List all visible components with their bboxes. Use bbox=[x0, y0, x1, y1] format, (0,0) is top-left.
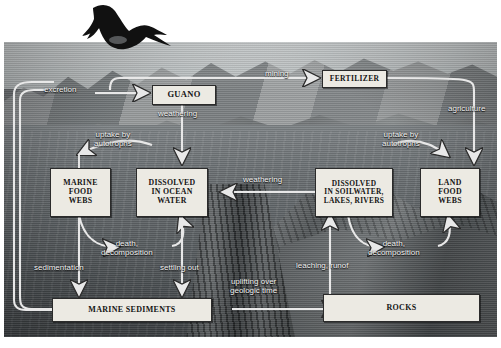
label-settling-out: settling out bbox=[160, 264, 199, 273]
box-dissolved-ocean-water[interactable]: DISSOLVEDIN OCEANWATER bbox=[136, 168, 208, 217]
label-excretion: excretion bbox=[44, 86, 76, 95]
label-uptake-marine: uptake byautotrophs bbox=[94, 131, 132, 148]
box-guano-label: GUANO bbox=[167, 90, 200, 100]
box-fertilizer[interactable]: FERTILIZER bbox=[322, 70, 387, 88]
box-fertilizer-label: FERTILIZER bbox=[330, 75, 380, 84]
label-mining: mining bbox=[265, 70, 289, 79]
box-rocks[interactable]: ROCKS bbox=[323, 294, 480, 322]
box-dissolved-ocean-water-label: DISSOLVEDIN OCEANWATER bbox=[148, 179, 195, 205]
label-death-decomp-land: death,decomposition bbox=[368, 240, 420, 257]
arrow-agriculture bbox=[384, 78, 474, 163]
label-uptake-land: uptake byautotrophs bbox=[382, 131, 420, 148]
label-agriculture: agriculture bbox=[448, 105, 485, 114]
box-rocks-label: ROCKS bbox=[387, 304, 417, 313]
box-land-food-webs[interactable]: LANDFOODWEBS bbox=[420, 168, 480, 217]
box-marine-sediments-label: MARINE SEDIMENTS bbox=[88, 306, 175, 315]
box-marine-food-webs[interactable]: MARINEFOODWEBS bbox=[50, 168, 111, 217]
phosphorus-cycle-figure: GUANO FERTILIZER MARINEFOODWEBS DISSOLVE… bbox=[0, 0, 501, 348]
label-uplifting: uplifting overgeologic time bbox=[230, 278, 277, 295]
box-guano[interactable]: GUANO bbox=[152, 85, 216, 105]
box-marine-sediments[interactable]: MARINE SEDIMENTS bbox=[52, 298, 212, 322]
label-leaching-runoff: leaching, runof bbox=[296, 262, 348, 271]
arrow-death-land-b bbox=[438, 216, 450, 246]
label-sedimentation: sedimentation bbox=[34, 264, 84, 273]
box-dissolved-soilwater[interactable]: DISSOLVEDIN SOILWATER,LAKES, RIVERS bbox=[315, 168, 393, 217]
label-weathering-guano: weathering bbox=[158, 110, 197, 119]
label-weathering-mid: weathering bbox=[243, 176, 282, 185]
label-death-decomp-marine: death,decomposition bbox=[101, 240, 153, 257]
box-land-food-webs-label: LANDFOODWEBS bbox=[438, 179, 462, 205]
box-marine-food-webs-label: MARINEFOODWEBS bbox=[63, 179, 97, 205]
box-dissolved-soilwater-label: DISSOLVEDIN SOILWATER,LAKES, RIVERS bbox=[324, 180, 385, 205]
